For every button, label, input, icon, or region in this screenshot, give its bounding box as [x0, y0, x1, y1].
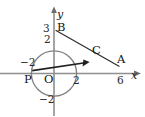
- vector-P-to-C-arrowhead: [83, 60, 90, 67]
- x-tick-minus-2: −2: [20, 57, 35, 68]
- x-tick-2: 2: [73, 75, 80, 86]
- y-tick-minus-2: −2: [39, 94, 54, 105]
- point-label-C: C: [92, 45, 101, 57]
- y-tick-3: 3: [43, 23, 50, 34]
- x-axis-label: x: [131, 70, 137, 81]
- x-tick-6: 6: [117, 75, 124, 86]
- y-axis-label: y: [57, 9, 63, 20]
- point-label-P: P: [24, 74, 32, 86]
- point-label-B: B: [57, 22, 65, 34]
- y-tick-2: 2: [44, 34, 51, 45]
- point-label-O: O: [44, 74, 53, 86]
- geometry-figure: y x 3 2 −2 −2 2 6 B C A P O: [0, 0, 145, 117]
- vector-P-to-C: [32, 63, 85, 71]
- segment-B-to-A: [56, 30, 120, 66]
- point-label-A: A: [117, 54, 125, 66]
